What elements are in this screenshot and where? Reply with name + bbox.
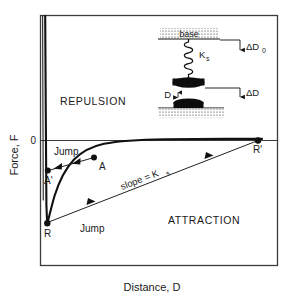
inset-afm-schematic: base K s D ΔD 0 ΔD [158,28,266,118]
inset-delta-d-label: ΔD [246,87,259,98]
y-axis-zero-tick: 0 [30,135,36,146]
inset-tip-block-upper-body [173,79,205,86]
inset-delta-d0-leader [220,40,240,50]
force-distance-figure: 0 Force, F Distance, D REPULSION ATTRACT… [0,0,292,302]
inset-delta-d0-subscript: 0 [262,47,266,54]
inset-gap-label: D [164,89,171,100]
inset-delta-d0-label: ΔD [246,41,259,52]
jump-label-lower: Jump [80,223,105,234]
inset-base-label: base [179,29,199,39]
jump-out-line [48,141,259,223]
inset-spring [184,39,192,78]
inset-delta-d-leader [205,88,240,97]
data-point-R-prime [255,137,261,143]
point-label-A-prime: A' [44,175,53,186]
y-axis-label: Force, F [8,134,20,175]
point-label-R: R [44,228,51,239]
force-distance-curve [45,16,262,223]
x-axis-label: Distance, D [124,281,181,293]
data-point-R [44,220,50,226]
point-label-A: A [99,161,106,172]
data-point-A [91,155,97,161]
slope-label: slope = K [119,167,161,192]
inset-sample-bump-body [174,102,204,108]
point-label-R-prime: R' [253,144,262,155]
slope-label-subscript: s [165,169,171,177]
region-label-repulsion: REPULSION [60,95,126,107]
inset-spring-label-subscript: s [206,55,210,62]
figure-container: 0 Force, F Distance, D REPULSION ATTRACT… [0,0,292,302]
data-point-A-prime [45,168,51,174]
jump-label-upper: Jump [54,146,79,157]
slope-annotation: slope = K s [119,163,171,193]
inset-substrate-block [158,109,224,118]
region-label-attraction: ATTRACTION [168,214,240,226]
repulsive-wall-inner-stroke [43,16,44,200]
inset-spring-label: K [199,49,206,60]
